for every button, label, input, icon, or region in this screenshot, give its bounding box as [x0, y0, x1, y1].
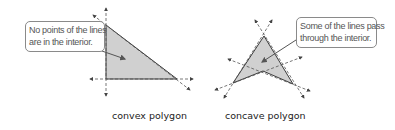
concave-callout-line2: through the interior.	[300, 32, 373, 44]
concave-callout-line1: Some of the lines pass	[300, 20, 373, 32]
concave-callout: Some of the lines pass through the inter…	[296, 17, 377, 48]
convex-polygon-figure	[90, 8, 193, 96]
convex-caption: convex polygon	[112, 110, 187, 121]
concave-caption: concave polygon	[225, 110, 306, 121]
convex-callout: No points of the lines are in the interi…	[25, 21, 105, 52]
convex-callout-line1: No points of the lines	[29, 24, 101, 36]
convex-callout-line2: are in the interior.	[29, 36, 101, 48]
concave-quadrilateral	[233, 36, 293, 84]
